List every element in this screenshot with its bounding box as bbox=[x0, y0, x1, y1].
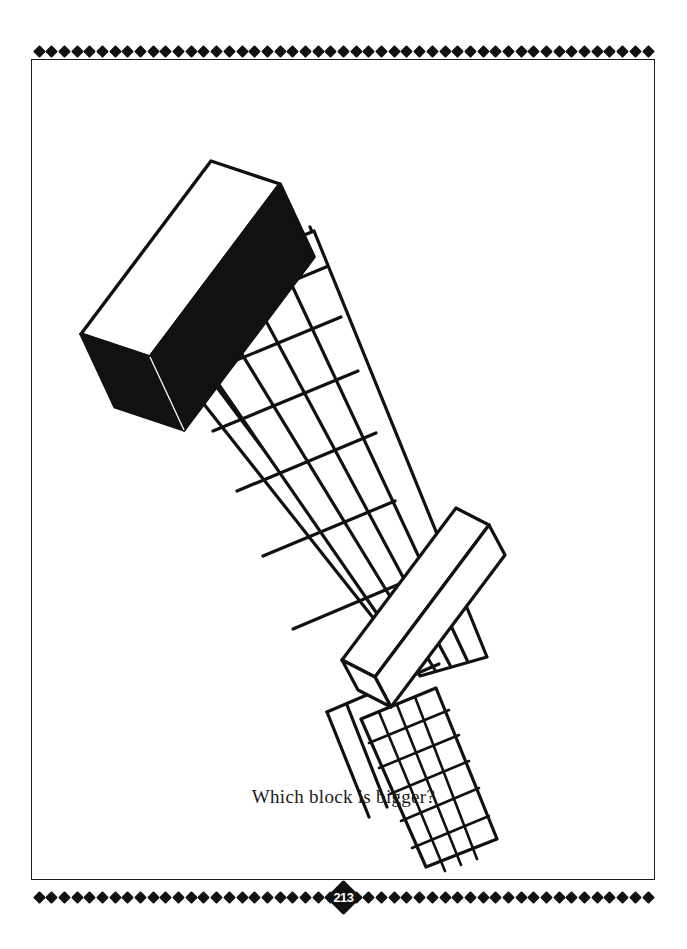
diamond-icon bbox=[363, 891, 376, 904]
diamond-icon bbox=[121, 45, 134, 58]
diamond-icon bbox=[312, 45, 325, 58]
diamond-icon bbox=[401, 45, 414, 58]
diamond-icon bbox=[83, 45, 96, 58]
diamond-icon bbox=[45, 45, 58, 58]
diamond-icon bbox=[642, 45, 655, 58]
diamond-icon bbox=[185, 45, 198, 58]
diamond-icon bbox=[388, 891, 401, 904]
diamond-icon bbox=[515, 891, 528, 904]
diamond-icon bbox=[477, 891, 490, 904]
diamond-icon bbox=[160, 891, 173, 904]
diamond-icon bbox=[71, 891, 84, 904]
diamond-icon bbox=[248, 45, 261, 58]
diamond-icon bbox=[312, 891, 325, 904]
illustration-svg bbox=[31, 59, 655, 880]
diamond-icon bbox=[629, 45, 642, 58]
diamond-icon bbox=[566, 45, 579, 58]
diamond-icon bbox=[451, 891, 464, 904]
diamond-icon bbox=[96, 891, 109, 904]
diamond-icon bbox=[363, 45, 376, 58]
diamond-icon bbox=[210, 45, 223, 58]
diamond-icon bbox=[540, 891, 553, 904]
diamond-icon bbox=[553, 891, 566, 904]
diamond-icon bbox=[591, 45, 604, 58]
diamond-icon bbox=[350, 45, 363, 58]
diamond-icon bbox=[591, 891, 604, 904]
diamond-icon bbox=[236, 45, 249, 58]
diamond-icon bbox=[464, 45, 477, 58]
diamond-icon bbox=[274, 891, 287, 904]
diamond-icon bbox=[337, 45, 350, 58]
diamond-icon bbox=[477, 45, 490, 58]
diamond-icon bbox=[236, 891, 249, 904]
diamond-icon bbox=[121, 891, 134, 904]
diamond-icon bbox=[629, 891, 642, 904]
diamond-icon bbox=[198, 891, 211, 904]
diamond-icon bbox=[299, 45, 312, 58]
page-number: 213 bbox=[333, 891, 353, 904]
diamond-icon bbox=[413, 891, 426, 904]
diamond-icon bbox=[566, 891, 579, 904]
diamond-icon bbox=[426, 45, 439, 58]
diamond-icon bbox=[223, 891, 236, 904]
diamond-icon bbox=[274, 45, 287, 58]
diamond-icon bbox=[375, 891, 388, 904]
diamond-icon bbox=[58, 45, 71, 58]
diamond-icon bbox=[426, 891, 439, 904]
diamond-icon bbox=[527, 45, 540, 58]
diamond-icon bbox=[439, 891, 452, 904]
diamond-icon bbox=[147, 45, 160, 58]
figure-perspective-corridor-block-illusion bbox=[31, 59, 655, 880]
diamond-icon bbox=[210, 891, 223, 904]
figure-caption: Which block is bigger? bbox=[0, 786, 687, 808]
diamond-icon bbox=[109, 891, 122, 904]
diamond-icon bbox=[413, 45, 426, 58]
diamond-icon bbox=[223, 45, 236, 58]
diamond-icon bbox=[540, 45, 553, 58]
diamond-icon bbox=[451, 45, 464, 58]
top-ornament-band bbox=[0, 42, 687, 60]
diamond-icon bbox=[134, 891, 147, 904]
diamond-icon bbox=[502, 891, 515, 904]
diamond-icon bbox=[439, 45, 452, 58]
page-number-medallion: 213 bbox=[325, 878, 363, 916]
diamond-icon bbox=[515, 45, 528, 58]
diamond-icon bbox=[527, 891, 540, 904]
diamond-icon bbox=[134, 45, 147, 58]
diamond-icon bbox=[553, 45, 566, 58]
diamond-icon bbox=[489, 891, 502, 904]
diamond-icon bbox=[71, 45, 84, 58]
diamond-icon bbox=[96, 45, 109, 58]
diamond-icon bbox=[464, 891, 477, 904]
diamond-icon bbox=[33, 45, 46, 58]
diamond-icon bbox=[489, 45, 502, 58]
diamond-icon bbox=[578, 45, 591, 58]
diamond-icon bbox=[401, 891, 414, 904]
diamond-icon bbox=[172, 891, 185, 904]
diamond-icon bbox=[185, 891, 198, 904]
diamond-icon bbox=[375, 45, 388, 58]
diamond-icon bbox=[502, 45, 515, 58]
diamond-icon bbox=[616, 45, 629, 58]
diamond-icon bbox=[33, 891, 46, 904]
diamond-icon bbox=[248, 891, 261, 904]
diamond-icon bbox=[604, 891, 617, 904]
page-canvas: Which block is bigger? 213 bbox=[0, 0, 687, 949]
diamond-icon bbox=[147, 891, 160, 904]
diamond-icon bbox=[299, 891, 312, 904]
diamond-icon bbox=[578, 891, 591, 904]
diamond-icon bbox=[388, 45, 401, 58]
diamond-icon bbox=[160, 45, 173, 58]
diamond-icon bbox=[286, 891, 299, 904]
diamond-icon bbox=[324, 45, 337, 58]
diamond-icon bbox=[45, 891, 58, 904]
diamond-icon bbox=[58, 891, 71, 904]
diamond-icon bbox=[109, 45, 122, 58]
diamond-icon bbox=[261, 891, 274, 904]
diamond-icon bbox=[198, 45, 211, 58]
diamond-icon bbox=[83, 891, 96, 904]
diamond-icon bbox=[616, 891, 629, 904]
diamond-icon bbox=[261, 45, 274, 58]
diamond-icon bbox=[604, 45, 617, 58]
diamond-icon bbox=[172, 45, 185, 58]
